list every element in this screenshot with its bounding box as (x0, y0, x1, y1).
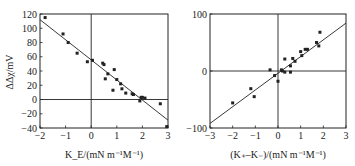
y-tick-label: 100 (192, 9, 207, 20)
data-point (315, 41, 318, 44)
x-tick-label: 3 (344, 130, 349, 141)
data-point (106, 72, 109, 75)
y-tick-label: 0 (202, 66, 207, 77)
data-point (283, 58, 286, 61)
data-point (273, 74, 276, 77)
data-point (299, 50, 302, 53)
x-tick-label: 2 (140, 130, 145, 141)
y-tick-label: 120 (22, 9, 37, 20)
data-point (143, 97, 146, 100)
y-tick-label: 80 (27, 37, 37, 48)
x-tick-label: 0 (89, 130, 94, 141)
x-tick-label: −1 (60, 130, 71, 141)
data-point (289, 71, 292, 74)
data-point (291, 57, 294, 60)
data-point (119, 82, 122, 85)
x-tick-label: −1 (250, 130, 261, 141)
data-point (44, 16, 47, 19)
y-tick-label: −40 (21, 123, 37, 134)
y-tick-label: 100 (22, 23, 37, 34)
data-point (249, 87, 252, 90)
data-point (231, 101, 234, 104)
data-point (294, 60, 297, 63)
regression-line (40, 20, 168, 120)
data-point (318, 31, 321, 34)
data-point (283, 71, 286, 74)
plot-frame (40, 14, 168, 128)
data-point (159, 102, 162, 105)
data-point (269, 68, 272, 71)
data-point (132, 93, 135, 96)
data-point (86, 60, 89, 63)
data-point (165, 125, 168, 128)
y-tick-label: −100 (186, 123, 207, 134)
y-tick-label: 40 (27, 66, 37, 77)
x-tick-label: −2 (227, 130, 238, 141)
x-tick-label: 3 (166, 130, 171, 141)
data-point (120, 87, 123, 90)
x-tick-label: 2 (321, 130, 326, 141)
data-point (124, 92, 127, 95)
data-point (103, 63, 106, 66)
data-point (67, 41, 70, 44)
y-tick-label: 20 (27, 80, 37, 91)
data-point (91, 59, 94, 62)
y-tick-label: −20 (21, 108, 37, 119)
x-tick-label: 1 (114, 130, 119, 141)
data-point (317, 44, 320, 47)
data-point (104, 77, 107, 80)
chart-figure: −2−10123−40−20020406080100120ΔΔχ/mVK_E/(… (0, 0, 355, 166)
data-point (277, 80, 280, 83)
right-chart: −3−2−10123−1000100(K₊–K₋)/(mN m⁻¹M⁻¹) (186, 9, 348, 162)
data-point (76, 52, 79, 55)
data-point (62, 32, 65, 35)
data-point (300, 54, 303, 57)
y-tick-label: 60 (27, 51, 37, 62)
data-point (115, 78, 118, 81)
y-tick-label: 0 (32, 94, 37, 105)
data-point (289, 64, 292, 67)
data-point (306, 48, 309, 51)
data-point (111, 89, 114, 92)
data-point (141, 96, 144, 99)
data-point (138, 99, 141, 102)
x-axis-label: K_E/(mN m⁻¹M⁻¹) (65, 149, 143, 161)
data-point (253, 95, 256, 98)
x-tick-label: 0 (276, 130, 281, 141)
left-chart: −2−10123−40−20020406080100120ΔΔχ/mVK_E/(… (4, 9, 171, 162)
data-point (113, 68, 116, 71)
x-tick-label: 1 (298, 130, 303, 141)
x-axis-label: (K₊–K₋)/(mN m⁻¹M⁻¹) (230, 149, 326, 161)
y-axis-label: ΔΔχ/mV (4, 54, 15, 90)
